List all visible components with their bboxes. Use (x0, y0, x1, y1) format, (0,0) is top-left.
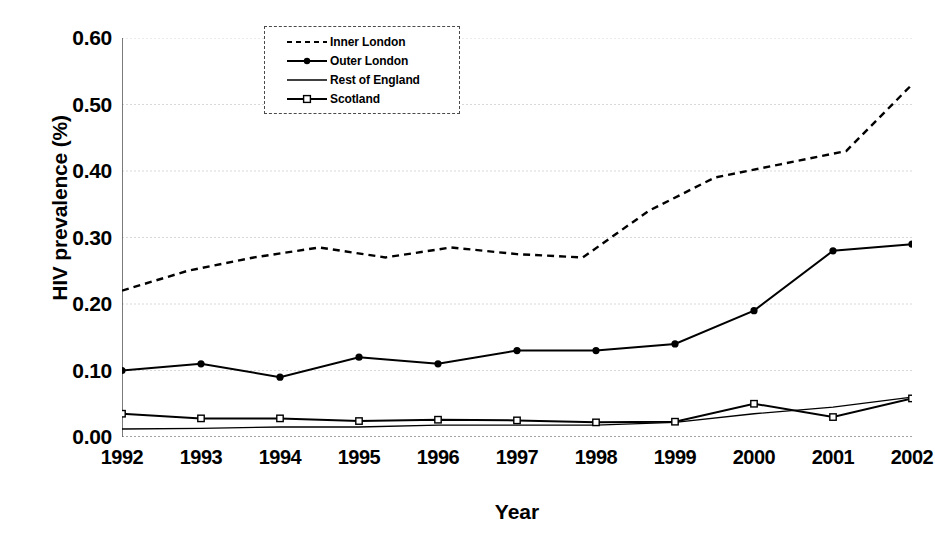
y-tick-label: 0.30 (2, 226, 112, 250)
legend-item-scotland[interactable]: Scotland (265, 89, 459, 108)
data-point (672, 419, 678, 425)
legend-item-outer-london[interactable]: Outer London (265, 51, 459, 70)
x-tick-label: 1996 (417, 446, 460, 469)
data-point (276, 374, 283, 381)
x-axis-tick-labels: 1992199319941995199619971998199920002001… (122, 446, 912, 480)
dashed-line-swatch (285, 35, 329, 49)
data-point (122, 411, 125, 417)
solid-line-square-swatch (285, 92, 329, 106)
data-point (750, 307, 757, 314)
legend-label: Rest of England (330, 73, 420, 87)
data-point (435, 417, 441, 423)
y-tick-label: 0.50 (2, 93, 112, 117)
data-point (909, 395, 912, 401)
x-tick-label: 1995 (338, 446, 381, 469)
series-line (122, 244, 912, 377)
x-tick-label: 2000 (733, 446, 776, 469)
y-tick-label: 0.10 (2, 359, 112, 383)
series-scotland (122, 395, 912, 425)
data-point (197, 360, 204, 367)
x-tick-label: 1998 (575, 446, 618, 469)
data-point (751, 401, 757, 407)
x-tick-label: 1999 (654, 446, 697, 469)
legend-label: Scotland (330, 92, 380, 106)
data-point (830, 414, 836, 420)
series-line (122, 85, 912, 291)
plot-area (122, 38, 912, 437)
y-tick-label: 0.60 (2, 26, 112, 50)
legend-item-inner-london[interactable]: Inner London (265, 32, 459, 51)
data-point (592, 347, 599, 354)
data-point (198, 415, 204, 421)
x-tick-label: 1997 (496, 446, 539, 469)
thin-line-swatch (285, 73, 329, 87)
legend-item-rest-of-england[interactable]: Rest of England (265, 70, 459, 89)
data-point (355, 354, 362, 361)
data-point (434, 360, 441, 367)
data-point (593, 419, 599, 425)
x-tick-label: 1993 (180, 446, 223, 469)
chart-plot-svg (122, 38, 912, 437)
y-tick-label: 0.40 (2, 159, 112, 183)
data-point (513, 347, 520, 354)
data-point (277, 415, 283, 421)
data-point (829, 247, 836, 254)
data-point (356, 418, 362, 424)
data-point (908, 241, 912, 248)
legend-label: Outer London (330, 54, 408, 68)
data-point (514, 417, 520, 423)
x-tick-label: 1994 (259, 446, 302, 469)
series-inner-london (122, 85, 912, 291)
data-point (671, 340, 678, 347)
x-tick-label: 2001 (812, 446, 855, 469)
y-tick-label: 0.20 (2, 292, 112, 316)
series-outer-london (122, 241, 912, 381)
y-tick-label: 0.00 (2, 425, 112, 449)
x-axis-title: Year (122, 500, 912, 524)
x-tick-label: 1992 (101, 446, 144, 469)
data-point (122, 367, 126, 374)
solid-line-circle-swatch (285, 54, 329, 68)
y-axis-tick-labels: 0.600.500.400.300.200.100.00 (0, 38, 112, 437)
legend-label: Inner London (330, 35, 405, 49)
x-tick-label: 2002 (891, 446, 934, 469)
chart-figure: HIV prevalence (%) 0.600.500.400.300.200… (0, 0, 935, 543)
chart-legend: Inner LondonOuter LondonRest of EnglandS… (264, 26, 460, 114)
